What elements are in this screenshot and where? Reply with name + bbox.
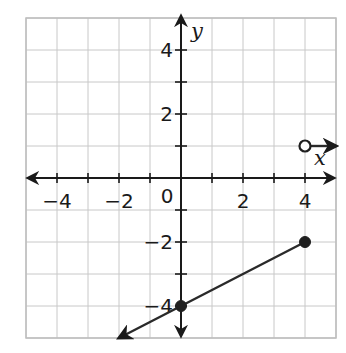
coordinate-plane: −4−224042−2−4 y x [0, 0, 346, 353]
x-tick-label: 4 [299, 189, 312, 213]
open-point-marker [300, 141, 311, 152]
closed-point-marker [300, 237, 311, 248]
y-tick-label: −4 [144, 294, 173, 318]
x-axis-label: x [314, 146, 326, 170]
y-axis-label: y [190, 19, 204, 43]
y-tick-label: 4 [160, 38, 173, 62]
x-tick-label: 2 [237, 189, 250, 213]
origin-label: 0 [161, 184, 174, 208]
y-tick-label: 2 [160, 102, 173, 126]
axes [28, 16, 334, 336]
x-tick-label: −2 [104, 189, 133, 213]
y-tick-label: −2 [144, 230, 173, 254]
closed-point-marker [176, 301, 187, 312]
x-tick-label: −4 [42, 189, 71, 213]
